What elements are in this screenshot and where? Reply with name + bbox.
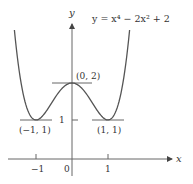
x-tick-label-neg1: −1 bbox=[31, 164, 44, 174]
equation-label: y = x⁴ − 2x² + 2 bbox=[91, 13, 170, 24]
right-min-label: (1, 1) bbox=[97, 125, 121, 135]
y-axis-label: y bbox=[68, 7, 75, 18]
function-graph: y x y = x⁴ − 2x² + 2 (0, 2) (−1, 1) (1, … bbox=[0, 0, 193, 184]
origin-label: 0 bbox=[64, 164, 70, 174]
x-axis-label: x bbox=[176, 153, 182, 164]
x-tick-label-1: 1 bbox=[105, 164, 111, 174]
max-point-label: (0, 2) bbox=[76, 71, 100, 81]
left-min-label: (−1, 1) bbox=[19, 125, 51, 135]
y-tick-label-1: 1 bbox=[59, 115, 65, 125]
